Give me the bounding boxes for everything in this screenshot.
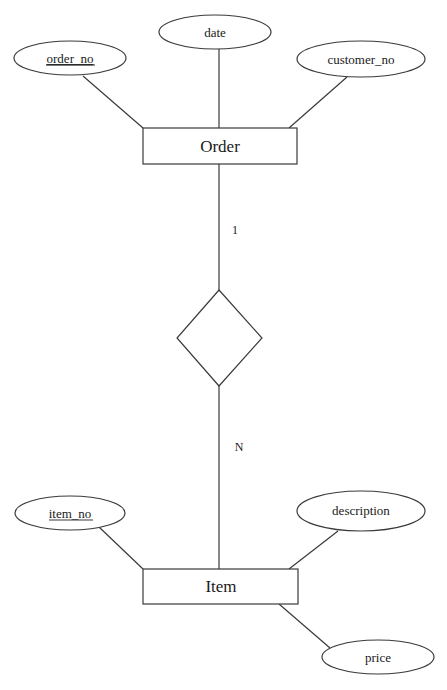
- attribute-label: price: [365, 650, 391, 665]
- edge-item-no: [99, 527, 143, 569]
- attribute-label: date: [204, 25, 226, 40]
- edge-description: [289, 531, 338, 569]
- edge-customer-no: [289, 77, 347, 128]
- attribute-customer-no: customer_no: [297, 41, 425, 77]
- attribute-label: order_no: [47, 51, 94, 66]
- attribute-order-no: order_no: [14, 41, 126, 75]
- attribute-price: price: [322, 640, 434, 674]
- entity-label: Item: [205, 577, 236, 596]
- entity-item: Item: [143, 569, 298, 604]
- edge-price: [279, 604, 330, 648]
- attribute-label: customer_no: [327, 52, 394, 67]
- er-diagram-canvas: order_no date customer_no Order 1 N item…: [0, 0, 447, 690]
- attribute-label: item_no: [49, 506, 92, 521]
- attribute-item-no: item_no: [15, 496, 125, 530]
- attribute-date: date: [159, 15, 271, 49]
- cardinality-one: 1: [232, 223, 238, 237]
- cardinality-many: N: [235, 440, 244, 454]
- edge-order-no: [83, 76, 143, 128]
- entity-label: Order: [200, 137, 240, 156]
- attribute-label: description: [332, 503, 390, 518]
- entity-order: Order: [143, 128, 297, 164]
- attribute-description: description: [297, 491, 425, 531]
- relationship-diamond: [177, 290, 262, 386]
